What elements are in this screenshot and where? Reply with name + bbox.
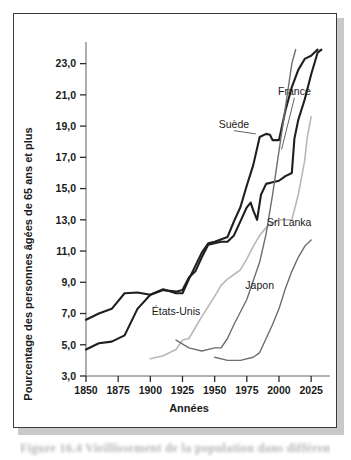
x-axis-tick-label: 1950	[203, 384, 227, 396]
x-axis-tick-label: 1975	[235, 384, 259, 396]
x-axis-tick-label: 1925	[171, 384, 195, 396]
y-axis-tick-label: 19,0	[56, 120, 77, 132]
y-axis-tick-label: 7,0	[61, 307, 76, 319]
y-axis-tick-label: 5,0	[61, 339, 76, 351]
figure-caption: Figure 16.4 Vieillissement de la populat…	[20, 441, 330, 457]
series-label-sri-lanka: Sri Lanka	[267, 216, 312, 228]
y-axis-tick-label: 23,0	[56, 57, 77, 69]
figure-root: 3,05,07,09,011,013,015,017,019,021,023,0…	[0, 0, 351, 460]
figure-frame: 3,05,07,09,011,013,015,017,019,021,023,0…	[13, 13, 337, 428]
series-label--tats-unis: États-Unis	[152, 305, 200, 317]
x-axis-tick-label: 1875	[106, 384, 130, 396]
caption-text: Figure 16.4 Vieillissement de la populat…	[20, 441, 330, 456]
x-axis-tick-label: 1900	[139, 384, 163, 396]
y-axis-tick-label: 3,0	[61, 370, 76, 382]
y-axis-tick-label: 11,0	[56, 245, 76, 257]
x-axis-tick-label: 2025	[299, 384, 323, 396]
y-axis-tick-label: 13,0	[56, 214, 77, 226]
series-label-japon: Japon	[245, 279, 274, 291]
y-axis-tick-label: 9,0	[61, 276, 76, 288]
series-label-su-de: Suède	[219, 118, 250, 130]
series-line-sri-lanka	[215, 240, 311, 360]
y-axis-tick-label: 17,0	[56, 151, 77, 163]
series-label-france: France	[278, 85, 311, 97]
x-axis-title: Années	[169, 402, 209, 414]
y-axis-tick-label: 21,0	[56, 89, 77, 101]
series-leader-line	[234, 131, 256, 134]
y-axis-tick-label: 15,0	[56, 182, 77, 194]
chart-area: 3,05,07,09,011,013,015,017,019,021,023,0…	[14, 14, 338, 429]
y-axis-title: Pourcentage des personnes âgées de 65 an…	[22, 127, 34, 400]
line-chart: 3,05,07,09,011,013,015,017,019,021,023,0…	[14, 14, 338, 429]
x-axis-tick-label: 2000	[267, 384, 291, 396]
x-axis-tick-label: 1850	[74, 384, 98, 396]
